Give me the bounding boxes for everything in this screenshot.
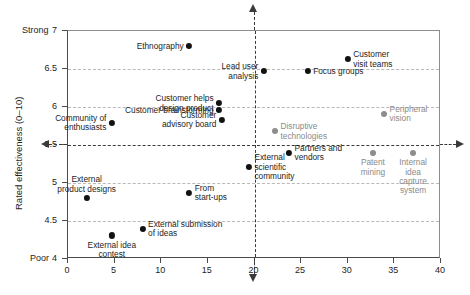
data-point[interactable] [410,150,416,156]
data-point[interactable] [186,190,192,196]
y-tick-label-7: 7 [31,26,57,35]
data-point[interactable] [216,100,222,106]
data-point[interactable] [305,68,311,74]
x-tick-label-25: 25 [287,266,313,275]
y-tick-label-6.5: 6.5 [31,64,57,73]
data-point-label: External submission of ideas [148,220,222,239]
x-tick-mark-0 [67,258,68,263]
gridline-y-4.5 [68,221,439,222]
y-axis-title: Rated effectiveness (0–10) [14,97,24,210]
y-tick-label-4.5: 4.5 [31,216,57,225]
data-point-label: Customer advisory board [162,111,216,130]
x-tick-label-35: 35 [380,266,406,275]
x-tick-label-5: 5 [101,266,127,275]
scatter-chart: Rated effectiveness (0–10) Strong Poor E… [0,0,470,295]
data-point-label: External scientific community [254,153,294,181]
data-point-label: Disruptive technologies [281,122,328,141]
data-point[interactable] [272,128,278,134]
data-point[interactable] [84,195,90,201]
data-point[interactable] [219,117,225,123]
x-tick-label-0: 0 [54,266,80,275]
data-point-label: Internal idea capture system [399,158,427,196]
data-point-label: External product designs [57,175,116,194]
x-tick-mark-15 [207,258,208,263]
y-tick-mark-6 [62,106,67,107]
y-tick-mark-5 [62,182,67,183]
x-tick-label-40: 40 [427,266,453,275]
data-point-label: Patent mining [361,158,385,177]
x-tick-mark-25 [300,258,301,263]
x-tick-mark-35 [393,258,394,263]
y-tick-label-5: 5 [31,178,57,187]
y-tick-label-4: 4 [31,254,57,263]
data-point-label: Lead user analysis [221,62,258,81]
gridline-y-6 [68,107,439,108]
x-tick-mark-40 [440,258,441,263]
data-point-label: Peripheral vision [390,105,428,124]
y-tick-label-6: 6 [31,102,57,111]
data-point-label: Community of enthusiasts [55,114,106,133]
x-tick-label-30: 30 [334,266,360,275]
data-point-label: Ethnography [137,42,184,51]
data-point[interactable] [246,164,252,170]
data-point-label: Partners and vendors [295,144,343,163]
data-point[interactable] [261,68,267,74]
data-point[interactable] [345,56,351,62]
data-point-label: From start-ups [195,184,227,203]
reference-arrow-stem [49,144,67,145]
gridline-y-5 [68,183,439,184]
data-point[interactable] [109,232,115,238]
gridline-y-5.5 [68,145,439,146]
data-point[interactable] [370,150,376,156]
data-point-label: Focus groups [313,67,363,76]
x-tick-mark-5 [114,258,115,263]
data-point-label: External idea contest [88,241,136,260]
reference-arrow-down-icon [249,274,257,282]
x-tick-mark-10 [160,258,161,263]
data-point[interactable] [381,111,387,117]
reference-arrow-stem [254,12,255,30]
data-point[interactable] [216,107,222,113]
x-tick-label-15: 15 [194,266,220,275]
reference-arrow-right-icon [456,140,464,148]
y-tick-mark-4.5 [62,220,67,221]
plot-area: EthnographyCustomer visit teamsFocus gro… [67,30,440,258]
reference-arrow-left-icon [41,140,49,148]
data-point[interactable] [186,43,192,49]
reference-arrow-stem [254,258,255,274]
reference-arrow-stem [440,144,456,145]
y-tick-mark-7 [62,30,67,31]
reference-arrow-up-icon [249,4,257,12]
x-tick-mark-30 [347,258,348,263]
y-tick-mark-6.5 [62,68,67,69]
data-point[interactable] [109,120,115,126]
x-tick-label-10: 10 [147,266,173,275]
data-point[interactable] [140,226,146,232]
